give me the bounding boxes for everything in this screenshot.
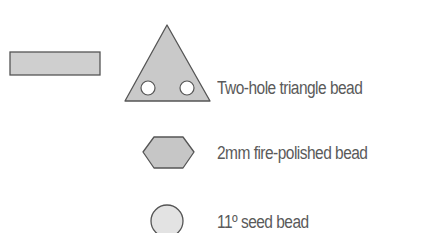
triangle-hole-right-icon [180,81,194,95]
fire-polished-bead-icon [143,137,194,168]
fire-polished-bead-label: 2mm fire-polished bead [217,144,367,162]
triangle-hole-left-icon [141,81,155,95]
triangle-bead-label: Two-hole triangle bead [217,79,362,97]
two-hole-triangle-bead-icon [125,25,210,101]
seed-bead-label: 11º seed bead [217,213,309,231]
bead-legend-diagram [0,0,422,233]
rectangle-bead-icon [10,52,100,75]
seed-bead-icon [151,205,183,233]
